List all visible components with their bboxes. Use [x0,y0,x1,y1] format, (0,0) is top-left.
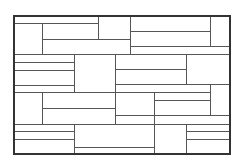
diagram-svg [0,0,242,165]
rectangle-tiling-diagram [0,0,242,165]
partition-lines [15,17,231,155]
